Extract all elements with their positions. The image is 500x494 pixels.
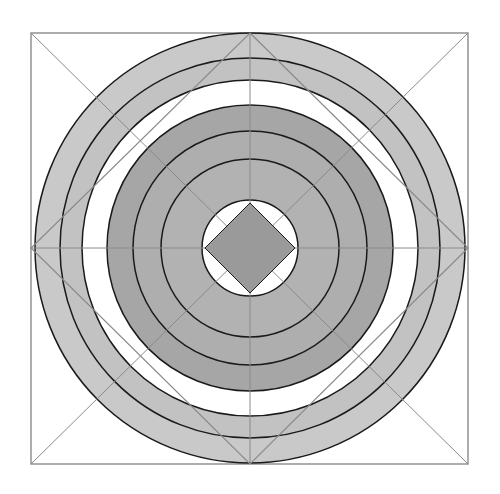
geometric-figure-canvas (0, 0, 500, 494)
figure-root (0, 0, 500, 494)
